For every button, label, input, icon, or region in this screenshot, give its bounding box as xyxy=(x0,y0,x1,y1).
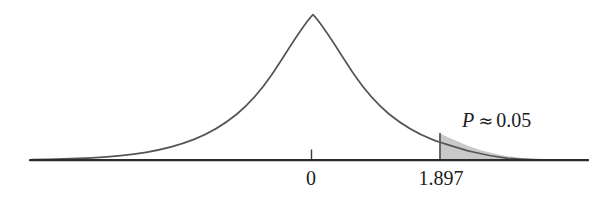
probability-annotation: P≈0.05 xyxy=(462,110,531,130)
distribution-figure: 0 1.897 P≈0.05 xyxy=(0,0,604,201)
probability-symbol: P xyxy=(462,109,474,131)
approximately-equal-icon: ≈ xyxy=(474,110,496,131)
normal-curve xyxy=(32,15,588,161)
probability-value: 0.05 xyxy=(496,109,531,131)
axis-tick-label-critical-value: 1.897 xyxy=(400,168,482,188)
axis-tick-label-zero: 0 xyxy=(281,168,341,188)
